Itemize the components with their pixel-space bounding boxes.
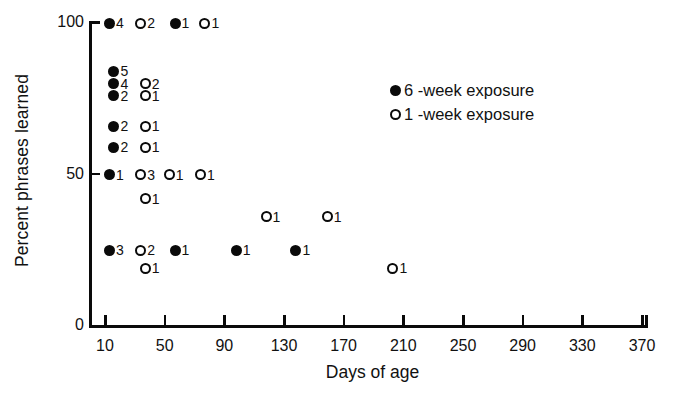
data-point: 2 xyxy=(108,119,128,133)
chart-legend: 6 -week exposure1 -week exposure xyxy=(390,78,534,126)
plot-area: 050100 105090130170210250290330370 41542… xyxy=(0,0,685,404)
legend-entry-label: 6 -week exposure xyxy=(404,81,534,100)
filled-circle-marker-icon xyxy=(170,245,181,256)
open-circle-marker-icon xyxy=(195,169,206,180)
open-circle-marker-icon xyxy=(164,169,175,180)
x-tick-label-210: 210 xyxy=(383,337,423,355)
data-point-count-label: 3 xyxy=(147,168,155,182)
data-point-count-label: 1 xyxy=(152,89,160,103)
x-tick-130 xyxy=(283,315,286,326)
data-point: 2 xyxy=(135,243,155,257)
x-tick-label-330: 330 xyxy=(562,337,602,355)
open-circle-marker-icon xyxy=(135,169,146,180)
data-point-count-label: 1 xyxy=(207,168,215,182)
data-point: 1 xyxy=(104,168,124,182)
open-circle-marker-icon xyxy=(387,263,398,274)
data-point-count-label: 2 xyxy=(120,119,128,133)
data-point-count-label: 2 xyxy=(120,140,128,154)
filled-circle-marker-icon xyxy=(104,245,115,256)
y-axis-title-wrapper: Percent phrases learned xyxy=(0,0,44,340)
filled-circle-marker-icon xyxy=(108,142,119,153)
data-point-count-label: 1 xyxy=(302,243,310,257)
filled-circle-marker-icon xyxy=(290,245,301,256)
data-point: 1 xyxy=(195,168,215,182)
x-tick-label-10: 10 xyxy=(85,337,125,355)
open-circle-marker-icon xyxy=(322,211,333,222)
data-point: 1 xyxy=(140,192,160,206)
data-point-count-label: 1 xyxy=(211,16,219,30)
open-circle-marker-icon xyxy=(140,90,151,101)
x-tick-label-290: 290 xyxy=(503,337,543,355)
data-point: 2 xyxy=(108,140,128,154)
data-point-count-label: 1 xyxy=(152,119,160,133)
data-point: 2 xyxy=(108,89,128,103)
data-point: 1 xyxy=(199,16,219,30)
data-point: 4 xyxy=(104,16,124,30)
scatter-plot-figure: 050100 105090130170210250290330370 41542… xyxy=(0,0,685,404)
filled-circle-marker-icon xyxy=(108,66,119,77)
filled-circle-marker-icon xyxy=(104,18,115,29)
data-point: 1 xyxy=(170,16,190,30)
data-point: 1 xyxy=(140,89,160,103)
open-circle-marker-icon xyxy=(135,18,146,29)
legend-entry: 1 -week exposure xyxy=(390,102,534,126)
open-circle-marker-icon xyxy=(199,18,210,29)
y-tick-50 xyxy=(89,173,100,176)
open-circle-marker-icon xyxy=(261,211,272,222)
data-point-count-label: 1 xyxy=(116,168,124,182)
x-tick-label-250: 250 xyxy=(443,337,483,355)
x-tick-370 xyxy=(641,315,644,326)
x-tick-50 xyxy=(164,315,167,326)
data-point-count-label: 3 xyxy=(116,243,124,257)
filled-circle-marker-icon xyxy=(108,121,119,132)
data-point-count-label: 1 xyxy=(182,243,190,257)
filled-circle-marker-icon xyxy=(170,18,181,29)
y-tick-100 xyxy=(89,21,100,24)
data-point: 1 xyxy=(170,243,190,257)
filled-circle-marker-icon xyxy=(104,169,115,180)
data-point: 1 xyxy=(140,261,160,275)
open-circle-marker-icon xyxy=(140,78,151,89)
x-tick-label-50: 50 xyxy=(145,337,185,355)
x-tick-290 xyxy=(522,315,525,326)
data-point: 1 xyxy=(290,243,310,257)
x-tick-label-170: 170 xyxy=(324,337,364,355)
y-tick-label-100: 100 xyxy=(40,13,84,31)
data-point-count-label: 2 xyxy=(147,243,155,257)
x-tick-330 xyxy=(581,315,584,326)
filled-circle-marker-icon xyxy=(108,90,119,101)
y-axis-title: Percent phrases learned xyxy=(12,74,33,267)
legend-entry: 6 -week exposure xyxy=(390,78,534,102)
data-point-count-label: 4 xyxy=(116,16,124,30)
data-point-count-label: 1 xyxy=(334,210,342,224)
data-point-count-label: 1 xyxy=(152,140,160,154)
data-point: 1 xyxy=(387,261,407,275)
x-tick-170 xyxy=(343,315,346,326)
x-axis-line xyxy=(89,325,648,328)
legend-entry-label: 1 -week exposure xyxy=(404,105,534,124)
data-point: 1 xyxy=(140,119,160,133)
data-point: 1 xyxy=(140,140,160,154)
data-point-count-label: 1 xyxy=(399,261,407,275)
y-tick-label-0: 0 xyxy=(40,316,84,334)
x-tick-250 xyxy=(462,315,465,326)
data-point-count-label: 2 xyxy=(120,89,128,103)
x-tick-90 xyxy=(223,315,226,326)
x-tick-label-130: 130 xyxy=(264,337,304,355)
data-point-count-label: 1 xyxy=(152,192,160,206)
data-point-count-label: 1 xyxy=(273,210,281,224)
filled-circle-marker-icon xyxy=(231,245,242,256)
data-point: 3 xyxy=(104,243,124,257)
data-point: 1 xyxy=(261,210,281,224)
data-point: 2 xyxy=(135,16,155,30)
open-circle-marker-icon xyxy=(140,263,151,274)
data-point: 1 xyxy=(164,168,184,182)
data-point-count-label: 1 xyxy=(152,261,160,275)
filled-circle-marker-icon xyxy=(390,85,401,96)
open-circle-marker-icon xyxy=(390,109,401,120)
data-point-count-label: 1 xyxy=(176,168,184,182)
x-tick-label-90: 90 xyxy=(204,337,244,355)
filled-circle-marker-icon xyxy=(108,78,119,89)
x-tick-10 xyxy=(104,315,107,326)
data-point-count-label: 1 xyxy=(182,16,190,30)
